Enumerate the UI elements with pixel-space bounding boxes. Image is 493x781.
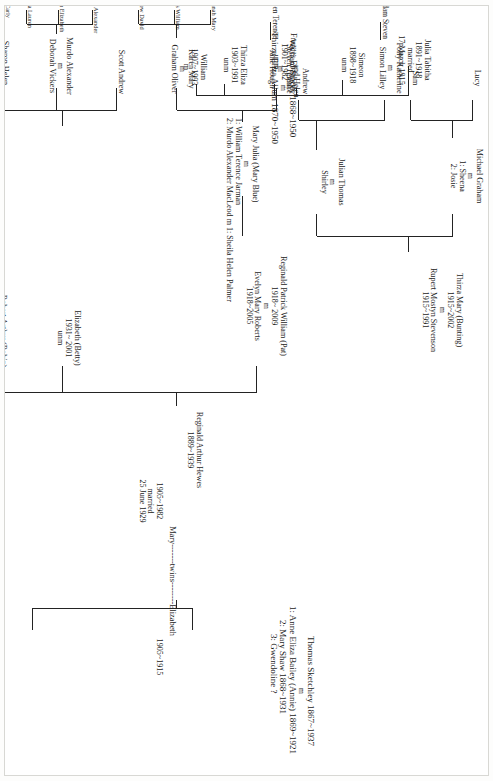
william-name: William <box>198 40 207 94</box>
graham-oliver-name: Graham Oliver <box>169 38 178 100</box>
thirza-eliza-connector <box>224 84 225 96</box>
michael-stem <box>452 120 453 138</box>
person-robin: Robert Arthur (Robin) 1934~1951 unm <box>4 286 7 376</box>
sketchley-couple-stem <box>176 600 177 608</box>
pat-dates: 1918~ 2009 <box>270 238 279 374</box>
simeon-name: Simeon <box>356 38 365 92</box>
andrew-name: Andrew <box>300 52 309 110</box>
root-couple-sketchley: Thomas Sketchley 1867~1937 m 1: Anne Eli… <box>268 606 315 776</box>
person-michael-graham: Michael Graham m 1: Sheena 2: Josie <box>449 138 483 214</box>
scan-frame: William Stacey 1868~1950 m Thirza Eliza … <box>4 5 489 776</box>
scott-name: Scott Andrew <box>116 48 125 96</box>
macleod-stem <box>62 110 63 126</box>
murdo-marriage-mark: m <box>56 34 64 98</box>
macleod-children-bus <box>4 110 117 111</box>
jarman-stem <box>242 110 243 122</box>
hewes-name: Reginald Arthur Hewes <box>194 404 203 496</box>
adam-steven-name: Adam Steven <box>381 5 389 50</box>
michael-connector <box>452 214 453 236</box>
suzannah-name: Suzannah Mary <box>210 5 217 38</box>
freya-name: Freya Lauren <box>26 5 33 38</box>
julian-stem <box>316 120 317 150</box>
shirley-name: Shirley <box>319 150 328 214</box>
rotated-chart-wrapper: William Stacey 1868~1950 m Thirza Eliza … <box>4 5 489 776</box>
mary-sk-dates: 1905~1982 <box>154 470 163 532</box>
child-elizabeth-sketchley: 1905~1915 <box>154 626 163 688</box>
michael-graham-name: Michael Graham <box>474 138 483 214</box>
lucy-name: Lucy <box>472 62 481 94</box>
thirza-mary-marriage-mark: m <box>437 250 445 370</box>
kirstin-name: Kirstin Elizabeth <box>58 5 65 38</box>
child-mary-sketchley: 1905~1982 married 25 June 1929 <box>137 470 163 532</box>
betty-dates: 1931~ 2001 <box>64 300 73 376</box>
mary-sk-marriage-date: 25 June 1929 <box>137 470 146 532</box>
julia-name: Julia Tabitha <box>422 28 431 92</box>
karen-name: Karen Mary <box>186 38 195 100</box>
person-freya-lauren: Freya Lauren <box>26 5 33 38</box>
simeon-dates: 1898~1918 <box>348 38 357 92</box>
ben-terence-name: Ben Terence <box>271 5 279 50</box>
person-mary-julia: Mary Julia (Mary Blue) m 1: William Tere… <box>225 118 259 378</box>
mary-julia-spouse-1: 1: William Terence Jarman <box>233 118 242 378</box>
person-julian-thomas: Julian Thomas m Shirley <box>319 150 345 214</box>
hewes-couple-stem <box>176 392 177 406</box>
simeon-connector <box>342 80 343 96</box>
spouse-reginald-hewes: Reginald Arthur Hewes 1889~1939 <box>186 404 203 496</box>
william-connector <box>196 84 197 96</box>
pat-name: Reginald Patrick William (Pat) <box>278 238 287 374</box>
person-suzannah-mary: Suzannah Mary <box>210 5 217 38</box>
person-sharon-helen: Sharon Helen m 1: Darren Pickering 2: Ja… <box>4 26 9 100</box>
person-murdo-alexander: Murdo Alexander m Deborah Vickers <box>47 34 73 98</box>
elizabeth-sk-dates: 1905~1915 <box>154 626 163 688</box>
betty-status: unm <box>55 300 64 376</box>
person-betty: Elizabeth (Betty) 1931~ 2001 unm <box>55 300 81 376</box>
mary-julia-spouse-2: 2: Murdo Alexander MacLeod m 1: Sheila H… <box>225 118 234 378</box>
mary-sk-connector <box>192 608 193 630</box>
karen-marriage-mark: m <box>178 38 186 100</box>
michael-spouse-2: 2: Josie <box>449 138 458 214</box>
michael-children-bus <box>411 120 473 121</box>
murdo-jr-name: Murdo Alexander <box>92 5 99 38</box>
polly-name: Polly Katherine <box>394 38 403 98</box>
sketchley-marriage-mark: m <box>297 606 305 776</box>
person-sam-graham: Sam <box>410 62 419 94</box>
rupert-stevenson-dates: 1915~1991 <box>420 250 429 370</box>
stevenson-sibling-bus <box>317 236 453 237</box>
polly-connector <box>384 100 385 120</box>
person-lewis-william: Lewis William <box>174 5 181 38</box>
person-lucy: Lucy <box>472 62 481 94</box>
person-ben-terence: Ben Terence <box>271 5 279 50</box>
robin-name: Robert Arthur (Robin) <box>4 286 7 376</box>
lucy-connector <box>472 100 473 120</box>
pat-marriage-mark: m <box>261 238 269 374</box>
julian-connector <box>316 214 317 236</box>
rupert-stevenson-name: Rupert Mostyn Stevenson <box>429 250 438 370</box>
murdo-children-stem <box>56 24 57 34</box>
lewis-name: Lewis William <box>174 5 181 38</box>
person-adam-steven: Adam Steven <box>381 5 389 50</box>
julian-thomas-name: Julian Thomas <box>336 150 345 214</box>
sam-graham-name: Sam <box>410 62 419 94</box>
person-thirza-mary: Thirza Mary (Bunting) 1915~2002 m Rupert… <box>420 250 463 370</box>
steven-name: Steven Terence <box>284 40 293 98</box>
twins-label: Mary-------twins--------Elizabeth <box>168 496 177 666</box>
julian-marriage-mark: m <box>328 150 336 214</box>
deborah-vickers-name: Deborah Vickers <box>47 34 56 98</box>
mary-sk-status: married <box>146 470 155 532</box>
person-carly: Carly <box>4 5 11 30</box>
thirza-eliza-status: unm <box>221 36 230 94</box>
stevenson-couple-stem <box>408 236 409 252</box>
julia-connector <box>408 66 409 96</box>
michael-spouse-1: 1: Sheena <box>457 138 466 214</box>
carly-name: Carly <box>4 5 11 30</box>
person-kirstin-elizabeth: Kirstin Elizabeth <box>58 5 65 38</box>
family-tree-page: William Stacey 1868~1950 m Thirza Eliza … <box>0 0 493 781</box>
sketchley-wife-2: 2: Mary Shaw 1868~1931 <box>278 620 288 776</box>
sam-connector <box>410 100 411 120</box>
sketchley-wife-1: 1: Anne Eliza Bailey (Annie) 1869~1921 <box>287 606 297 776</box>
twins-text: Mary-------twins--------Elizabeth <box>168 496 177 666</box>
michael-marriage-mark: m <box>466 138 474 214</box>
chart-canvas: William Stacey 1868~1950 m Thirza Eliza … <box>4 5 489 776</box>
jarman-children-bus <box>177 110 277 111</box>
sketchley-sibling-bus <box>33 608 193 609</box>
